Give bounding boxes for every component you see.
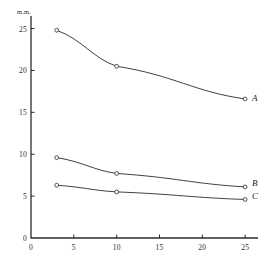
data-point-marker [243,185,247,189]
data-point-marker [115,172,119,176]
data-point-marker [115,190,119,194]
data-point-marker [115,64,119,68]
data-series-group [55,28,247,201]
data-point-marker [55,28,59,32]
data-point-marker [55,183,59,187]
y-tick-label: 15 [11,108,27,117]
y-tick-label: 5 [11,192,27,201]
data-point-marker [243,97,247,101]
x-tick-label: 5 [66,243,82,252]
y-tick-label: 10 [11,150,27,159]
axis-ticks [31,29,245,238]
axes [31,16,259,238]
chart-plot-area [0,0,268,264]
data-point-marker [55,156,59,160]
x-tick-label: 25 [237,243,253,252]
series-label-c: C [252,191,258,201]
y-tick-label: 25 [11,25,27,34]
origin-label: 0 [11,234,27,243]
x-tick-label: 15 [151,243,167,252]
y-tick-label: 20 [11,66,27,75]
series-line-b [57,158,245,187]
x-tick-label: 10 [109,243,125,252]
x-tick-label: 0 [23,243,39,252]
series-label-b: B [252,178,258,188]
x-tick-label: 20 [194,243,210,252]
series-line-a [57,30,245,99]
series-line-c [57,185,245,199]
data-point-marker [243,198,247,202]
series-label-a: A [252,93,258,103]
y-axis-unit-label: m.m. [17,8,31,15]
line-chart-figure: 05101520255101520250m.m.ABC [0,0,268,264]
